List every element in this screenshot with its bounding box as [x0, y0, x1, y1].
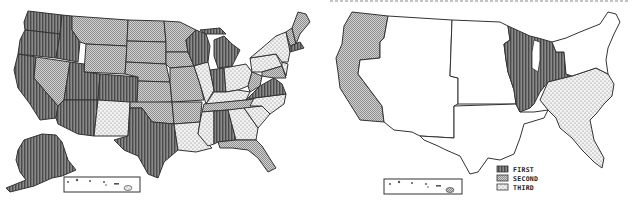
state-north-dakota [127, 20, 166, 42]
legend: FIRST SECOND THIRD [497, 166, 538, 192]
state-kansas [137, 81, 172, 103]
legend-label-first: FIRST [513, 166, 534, 174]
state-montana [72, 16, 128, 46]
state-south-dakota [126, 41, 166, 64]
state-maine [292, 12, 310, 44]
legend-swatch-first [497, 166, 508, 172]
maps-svg: FIRST SECOND THIRD [0, 0, 639, 203]
state-arkansas [172, 102, 202, 124]
legend-label-second: SECOND [513, 175, 538, 183]
legend-swatch-second [497, 175, 508, 181]
state-florida [218, 140, 276, 172]
left-map [6, 11, 310, 192]
state-colorado [98, 74, 138, 103]
legend-label-third: THIRD [513, 184, 534, 192]
state-ohio [224, 64, 252, 92]
lake-michigan [532, 40, 540, 72]
state-wyoming [84, 44, 127, 74]
right-map: FIRST SECOND THIRD [336, 12, 620, 194]
state-oregon [18, 30, 60, 58]
state-arizona [56, 100, 98, 136]
region-southeast-atlantic [540, 68, 614, 168]
legend-swatch-third [497, 184, 508, 190]
legend-item-second: SECOND [497, 175, 538, 183]
cut-off-title [330, 0, 630, 2]
legend-item-third: THIRD [497, 184, 534, 192]
legend-item-first: FIRST [497, 166, 534, 174]
map-figure: FIRST SECOND THIRD [0, 0, 639, 203]
state-new-mexico [94, 100, 130, 136]
